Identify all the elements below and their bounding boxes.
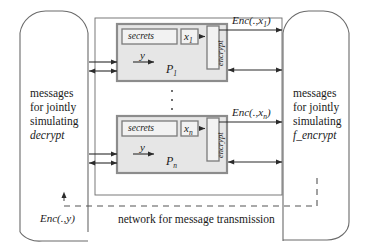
y-label-p1: y xyxy=(140,49,145,62)
left-capsule-text: messages for jointly simulating decrypt xyxy=(30,86,79,142)
encrypt-label-pn: encrypt xyxy=(215,133,225,159)
right-capsule-line-4: f_encrypt xyxy=(293,128,342,142)
process-label-pn: Pn xyxy=(166,154,177,171)
left-capsule-line-4: decrypt xyxy=(30,128,79,142)
y-label-pn: y xyxy=(140,141,145,154)
dashed-feedback-path xyxy=(64,178,317,206)
enc-output-label-pn: Enc(.,xn) xyxy=(232,106,271,122)
left-capsule-line-3: simulating xyxy=(30,114,79,128)
left-capsule-line-1: messages xyxy=(30,86,79,100)
input-label-pn: xn xyxy=(184,122,193,138)
enc-output-label-p1: Enc(.,x1) xyxy=(232,14,271,30)
process-label-p1: P1 xyxy=(166,62,177,79)
right-capsule-text: messages for jointly simulating f_encryp… xyxy=(293,86,342,142)
diagram-canvas: messages for jointly simulating decrypt … xyxy=(0,0,366,242)
network-label: network for message transmission xyxy=(118,213,275,227)
encrypt-label-p1: encrypt xyxy=(215,41,225,67)
input-label-p1: x1 xyxy=(184,30,193,46)
secrets-label-p1: secrets xyxy=(128,31,154,42)
left-capsule-line-2: for jointly xyxy=(30,100,79,114)
right-capsule-line-2: for jointly xyxy=(293,100,342,114)
right-capsule-line-3: simulating xyxy=(293,114,342,128)
feedback-label: Enc(.,y) xyxy=(40,212,75,225)
secrets-label-pn: secrets xyxy=(128,123,154,134)
right-capsule-line-1: messages xyxy=(293,86,342,100)
